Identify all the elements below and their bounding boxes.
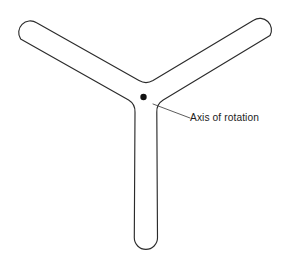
axis-of-rotation-label: Axis of rotation — [190, 112, 259, 123]
axis-of-rotation-dot — [140, 94, 146, 100]
rotor-diagram-svg: Axis of rotation — [0, 0, 283, 264]
figure-root: Axis of rotation — [0, 0, 283, 264]
